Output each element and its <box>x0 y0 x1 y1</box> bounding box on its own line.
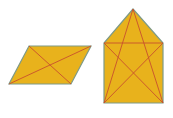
house-pentagon-outline <box>104 9 163 103</box>
house-pentagon-shape <box>104 9 163 103</box>
parallelogram-shape <box>9 46 91 84</box>
geometry-figure <box>0 0 173 118</box>
